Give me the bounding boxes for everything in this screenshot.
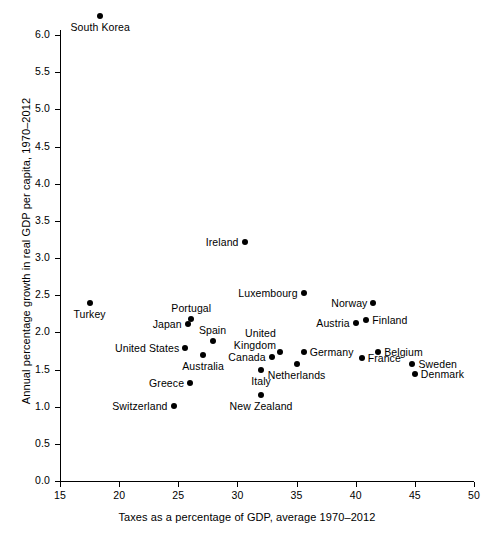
point-label-portugal: Portugal: [121, 302, 261, 314]
data-point-luxembourg[interactable]: [301, 290, 307, 296]
point-label-ireland: Ireland: [99, 236, 239, 248]
data-point-netherlands[interactable]: [294, 361, 300, 367]
y-tick-4.0: [55, 184, 60, 185]
data-point-norway[interactable]: [370, 300, 376, 306]
point-label-denmark: Denmark: [421, 368, 464, 380]
point-label-greece: Greece: [44, 377, 184, 389]
point-label-canada: Canada: [126, 351, 266, 363]
x-tick-35: [297, 482, 298, 487]
data-point-austria[interactable]: [353, 320, 359, 326]
y-axis-title: Annual percentage growth in real GDP per…: [20, 21, 32, 481]
y-tick-3.0: [55, 258, 60, 259]
y-tick-5.5: [55, 72, 60, 73]
x-tick-30: [237, 482, 238, 487]
data-point-finland[interactable]: [363, 317, 369, 323]
point-label-france: France: [368, 352, 401, 364]
x-tick-label-35: 35: [277, 489, 317, 501]
x-tick-45: [415, 482, 416, 487]
data-point-south-korea[interactable]: [97, 13, 103, 19]
point-label-new-zealand: New Zealand: [191, 400, 331, 412]
y-axis-line: [60, 30, 61, 481]
x-tick-20: [119, 482, 120, 487]
data-point-united-kingdom[interactable]: [277, 349, 283, 355]
point-label-switzerland: Switzerland: [28, 400, 168, 412]
y-tick-4.5: [55, 147, 60, 148]
data-point-canada[interactable]: [269, 354, 275, 360]
data-point-denmark[interactable]: [412, 371, 418, 377]
data-point-turkey[interactable]: [87, 300, 93, 306]
data-point-sweden[interactable]: [409, 361, 415, 367]
x-tick-15: [60, 482, 61, 487]
x-tick-label-30: 30: [217, 489, 257, 501]
point-label-italy: Italy: [191, 375, 331, 387]
y-tick-0.0: [55, 481, 60, 482]
x-tick-label-45: 45: [395, 489, 435, 501]
x-tick-50: [474, 482, 475, 487]
data-point-switzerland[interactable]: [171, 403, 177, 409]
x-tick-label-20: 20: [99, 489, 139, 501]
data-point-greece[interactable]: [187, 380, 193, 386]
data-point-ireland[interactable]: [242, 239, 248, 245]
data-point-germany[interactable]: [301, 349, 307, 355]
y-tick-3.5: [55, 221, 60, 222]
x-tick-25: [178, 482, 179, 487]
y-tick-5.0: [55, 109, 60, 110]
y-tick-2.0: [55, 332, 60, 333]
y-tick-1.5: [55, 370, 60, 371]
y-tick-2.5: [55, 295, 60, 296]
scatter-plot-figure: 1520253035404550 0.00.51.01.52.02.53.03.…: [0, 0, 494, 540]
x-tick-label-50: 50: [454, 489, 494, 501]
point-label-germany: Germany: [310, 346, 354, 358]
y-tick-6.0: [55, 35, 60, 36]
x-axis-line: [60, 481, 474, 482]
point-label-finland: Finland: [372, 314, 407, 326]
x-tick-40: [356, 482, 357, 487]
data-point-france[interactable]: [359, 355, 365, 361]
x-axis-title: Taxes as a percentage of GDP, average 19…: [0, 511, 494, 523]
x-tick-label-25: 25: [158, 489, 198, 501]
data-point-italy[interactable]: [258, 367, 264, 373]
point-label-south-korea: South Korea: [30, 21, 170, 33]
x-tick-label-40: 40: [336, 489, 376, 501]
data-point-new-zealand[interactable]: [258, 392, 264, 398]
y-tick-0.5: [55, 444, 60, 445]
x-tick-label-15: 15: [40, 489, 80, 501]
point-label-united-kingdom: UnitedKingdom: [136, 327, 276, 351]
